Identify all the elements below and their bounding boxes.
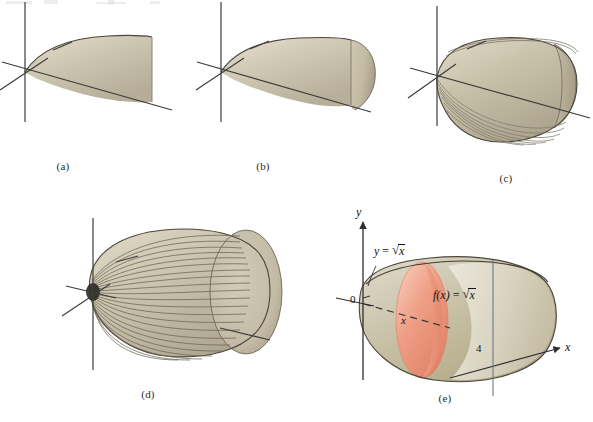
- panel-b: (b): [195, 0, 390, 160]
- figure-root: (a): [0, 0, 593, 422]
- x-axis-label-e: x: [565, 340, 570, 355]
- origin-label-e: 0: [350, 293, 356, 305]
- panel-c-graphic: [390, 0, 593, 175]
- panel-caption-d: (d): [128, 388, 168, 400]
- radius-length-label-e: x: [401, 315, 406, 326]
- swept-face-b: [351, 40, 375, 110]
- end-cap-disk-d: [210, 230, 282, 354]
- curve-equation-lhs: y: [374, 244, 379, 258]
- radius-equation-equals: =: [453, 288, 460, 302]
- curve-equation-radical: √ x: [392, 244, 405, 257]
- curve-equation-label-e: y = √ x: [374, 244, 405, 257]
- panel-caption-e: (e): [425, 392, 465, 404]
- radius-equation-lhs: f(x): [433, 288, 450, 302]
- region-surface-a: [25, 36, 152, 103]
- panel-a: (a): [0, 0, 195, 160]
- panel-caption-c: (c): [486, 172, 526, 184]
- panel-d-graphic: [60, 200, 340, 390]
- panel-b-graphic: [195, 0, 390, 160]
- panel-e: y x 0 4 x y = √ x f(x) = √ x (e): [330, 200, 593, 400]
- panel-c: (c): [390, 0, 593, 175]
- panel-caption-a: (a): [43, 160, 83, 172]
- radius-equation-label-e: f(x) = √ x: [433, 288, 476, 301]
- curve-equation-equals: =: [382, 244, 389, 258]
- x-tick-label-4-e: 4: [476, 342, 482, 354]
- radius-equation-radical: √ x: [462, 288, 475, 301]
- panel-d: (d): [60, 200, 340, 390]
- region-surface-b: [221, 38, 351, 107]
- y-axis-label-e: y: [356, 205, 361, 220]
- panel-caption-b: (b): [243, 160, 283, 172]
- panel-a-graphic: [0, 0, 195, 160]
